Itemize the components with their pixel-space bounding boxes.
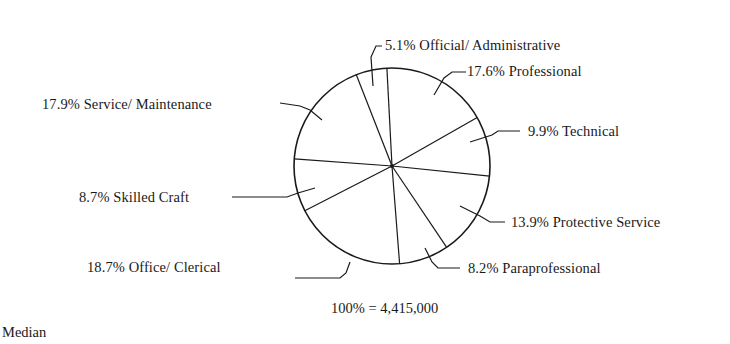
total-label: 100% = 4,415,000 bbox=[331, 300, 438, 317]
label-technical: 9.9% Technical bbox=[528, 123, 619, 139]
label-paraprofessional: 8.2% Paraprofessional bbox=[468, 260, 601, 276]
pie-chart bbox=[0, 0, 730, 344]
footer-text: Median bbox=[2, 324, 46, 341]
pie-slices bbox=[294, 68, 490, 264]
label-professional: 17.6% Professional bbox=[467, 63, 582, 79]
label-service: 17.9% Service/ Maintenance bbox=[42, 96, 212, 112]
label-skilled: 8.7% Skilled Craft bbox=[79, 189, 189, 205]
leader-office bbox=[295, 262, 350, 278]
label-official: 5.1% Official/ Administrative bbox=[385, 37, 560, 53]
label-office: 18.7% Office/ Clerical bbox=[87, 259, 221, 275]
label-protective: 13.9% Protective Service bbox=[511, 214, 660, 230]
pie-center bbox=[390, 164, 394, 168]
